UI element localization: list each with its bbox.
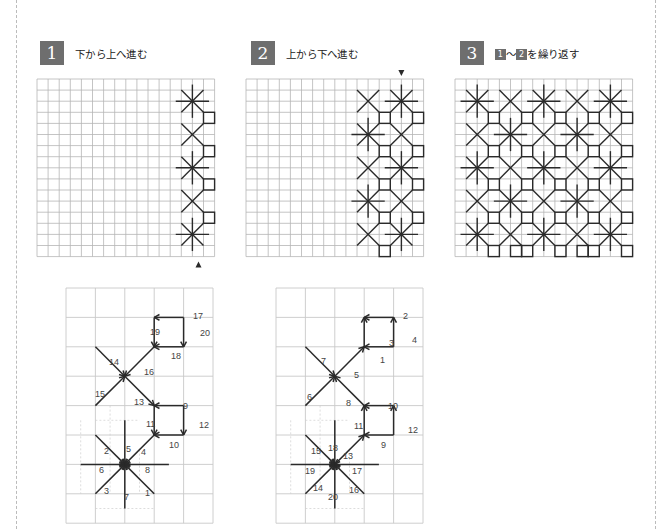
- stitch-order-diagram-2: 2341756810111291518131917142016: [0, 0, 664, 529]
- stitch-order-label: 15: [311, 446, 321, 456]
- stitch-order-label: 5: [354, 370, 359, 380]
- stitch-order-label: 12: [408, 425, 418, 435]
- stitch-order-label: 2: [403, 311, 408, 321]
- stitch-order-label: 4: [412, 335, 417, 345]
- stitch-order-label: 3: [389, 338, 394, 348]
- stitch-order-label: 1: [380, 355, 385, 365]
- stitch-order-label: 14: [313, 483, 323, 493]
- stitch-order-label: 9: [381, 440, 386, 450]
- stitch-order-label: 6: [307, 392, 312, 402]
- stitch-order-label: 13: [343, 451, 353, 461]
- stitch-order-label: 10: [388, 401, 398, 411]
- stitch-arrow: [335, 347, 364, 376]
- stitch-order-label: 20: [328, 492, 338, 502]
- stitch-order-label: 19: [305, 466, 315, 476]
- stitch-order-label: 7: [321, 356, 326, 366]
- stitch-order-label: 16: [349, 485, 359, 495]
- stitch-order-label: 8: [346, 398, 351, 408]
- stitch-order-label: 17: [352, 466, 362, 476]
- stitch-order-label: 18: [328, 443, 338, 453]
- stitch-order-label: 11: [354, 421, 363, 431]
